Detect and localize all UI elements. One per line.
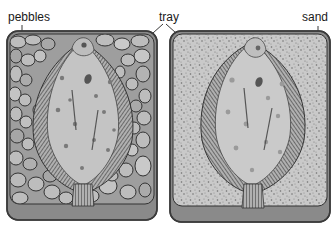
tray-leader-right — [166, 24, 176, 33]
left-tray — [7, 31, 157, 220]
illustration — [0, 0, 331, 227]
right-tray — [170, 31, 330, 222]
tray-leader-left — [153, 24, 163, 33]
